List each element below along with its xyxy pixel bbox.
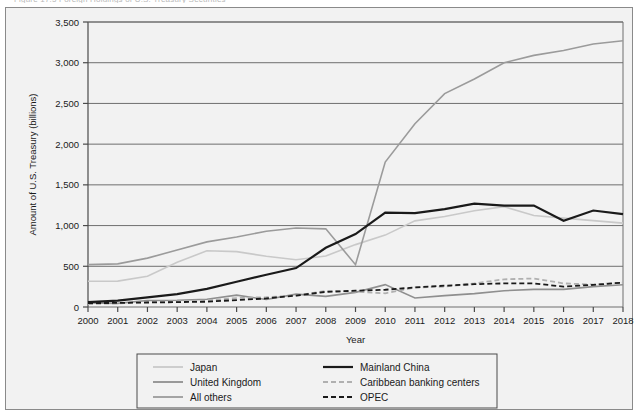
x-tick-label: 2001 — [107, 315, 128, 326]
line-chart: 05001,0001,5002,0002,5003,0003,500 20002… — [0, 0, 640, 416]
x-tick-label: 2014 — [494, 315, 515, 326]
legend-label: All others — [190, 392, 232, 403]
y-tick-label: 1,500 — [55, 179, 79, 190]
x-tick-label: 2009 — [345, 315, 366, 326]
x-tick-label: 2016 — [553, 315, 574, 326]
legend-label: United Kingdom — [190, 377, 261, 388]
y-tick-label: 0 — [74, 302, 79, 313]
x-tick-label: 2017 — [583, 315, 604, 326]
x-tick-label: 2010 — [375, 315, 396, 326]
y-tick-label: 500 — [63, 261, 79, 272]
x-tick-label: 2003 — [167, 315, 188, 326]
x-tick-label: 2015 — [523, 315, 544, 326]
x-tick-label: 2012 — [434, 315, 455, 326]
y-tick-label: 3,000 — [55, 57, 79, 68]
y-tick-label: 2,500 — [55, 98, 79, 109]
chart-figure: Figure 17.5 Foreign Holdings of U.S. Tre… — [0, 0, 640, 416]
legend-label: OPEC — [360, 392, 388, 403]
x-tick-label: 2007 — [285, 315, 306, 326]
x-axis-ticks: 2000200120022003200420052006200720082009… — [77, 307, 633, 326]
legend-label: Mainland China — [360, 362, 430, 373]
x-tick-label: 2004 — [196, 315, 217, 326]
legend-label: Japan — [190, 362, 217, 373]
y-axis-title: Amount of U.S. Treasury (billions) — [27, 93, 38, 235]
chart-legend: JapanMainland ChinaUnited KingdomCaribbe… — [137, 354, 497, 408]
x-tick-label: 2005 — [226, 315, 247, 326]
x-axis-title: Year — [346, 334, 365, 345]
x-tick-label: 2008 — [315, 315, 336, 326]
x-tick-label: 2013 — [464, 315, 485, 326]
y-tick-label: 3,500 — [55, 17, 79, 28]
x-tick-label: 2002 — [137, 315, 158, 326]
legend-label: Caribbean banking centers — [360, 377, 480, 388]
y-tick-label: 2,000 — [55, 139, 79, 150]
x-tick-label: 2000 — [77, 315, 98, 326]
x-tick-label: 2018 — [612, 315, 633, 326]
y-tick-label: 1,000 — [55, 220, 79, 231]
x-tick-label: 2011 — [405, 315, 425, 326]
y-axis-ticks: 05001,0001,5002,0002,5003,0003,500 — [55, 17, 88, 313]
x-tick-label: 2006 — [256, 315, 277, 326]
